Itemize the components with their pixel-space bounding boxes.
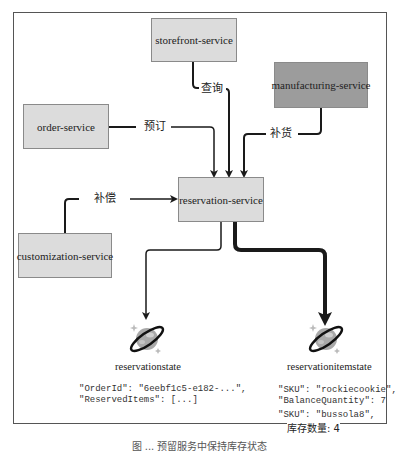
customization-service-label: customization-service (17, 250, 114, 262)
storefront-service-box: storefront-service (151, 18, 237, 62)
order-service-label: order-service (37, 121, 95, 133)
edge-label-reserve: 预订 (142, 121, 168, 133)
manufacturing-service-box: manufacturing-service (274, 62, 368, 108)
edge-label-compensate: 补偿 (92, 193, 118, 205)
cosmos-db-icon (305, 318, 349, 358)
reservationitemstate-quantity-line: 库存数量: 4 (287, 420, 340, 435)
reservationitemstate-sample-line-1: "SKU": "rockiecookie", (278, 385, 397, 396)
customization-service-box: customization-service (18, 233, 112, 278)
store-name-reservationstate: reservationstate (115, 361, 181, 372)
edge-label-query: 查询 (199, 83, 225, 95)
reservation-service-label: reservation-service (179, 194, 263, 206)
storefront-service-label: storefront-service (155, 34, 233, 46)
reservationstate-sample-line-1: "OrderId": "6eebf1c5-e182-...", (79, 384, 246, 395)
reservationstate-sample-line-2: "ReservedItems": [...] (79, 395, 198, 406)
manufacturing-service-label: manufacturing-service (272, 79, 371, 91)
edge-label-replenish: 补货 (268, 128, 294, 140)
reservationitemstate-sample-line-2: "BalanceQuantity": 7 (278, 396, 386, 407)
cosmos-db-icon (126, 318, 170, 358)
reservation-service-box: reservation-service (178, 177, 264, 222)
store-name-reservationitemstate: reservationitemstate (287, 361, 372, 372)
order-service-box: order-service (23, 104, 109, 149)
figure-caption: 图 ... 预留服务中保持库存状态 (0, 438, 399, 453)
